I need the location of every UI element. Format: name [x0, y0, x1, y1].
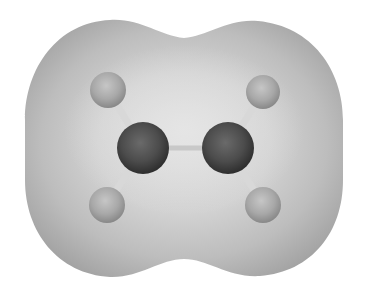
carbon-right-atom [202, 122, 254, 174]
hydrogen-top-right-atom [246, 75, 280, 109]
hydrogen-bottom-left-atom [89, 187, 125, 223]
hydrogen-bottom-right-atom [245, 187, 281, 223]
carbon-left-atom [117, 122, 169, 174]
hydrogen-top-left-atom [90, 72, 126, 108]
ethylene-electron-density-figure [0, 0, 368, 300]
molecule-illustration [0, 0, 368, 300]
